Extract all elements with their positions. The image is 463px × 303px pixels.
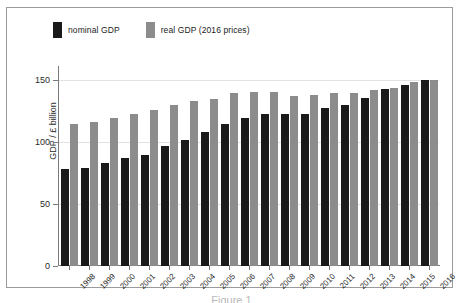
x-tick-label-2012: 2012 bbox=[358, 272, 377, 291]
bar-nominal-2005 bbox=[201, 132, 209, 266]
y-tick-label-50: 50 bbox=[40, 199, 50, 209]
x-tick-label-2010: 2010 bbox=[318, 272, 337, 291]
x-tick-mark-2000 bbox=[109, 266, 110, 270]
x-tick-mark-2008 bbox=[269, 266, 270, 270]
bar-real-2010 bbox=[310, 95, 318, 266]
x-tick-label-2013: 2013 bbox=[378, 272, 397, 291]
x-tick-label-2014: 2014 bbox=[398, 272, 417, 291]
figure-page: nominal GDP real GDP (2016 prices) GDP /… bbox=[0, 0, 463, 303]
x-tick-label-2004: 2004 bbox=[198, 272, 217, 291]
bar-real-2008 bbox=[270, 92, 278, 266]
x-tick-mark-2009 bbox=[289, 266, 290, 270]
x-tick-label-2009: 2009 bbox=[298, 272, 317, 291]
bar-real-2004 bbox=[190, 101, 198, 266]
bar-nominal-2010 bbox=[301, 114, 309, 266]
bar-group-2007 bbox=[239, 68, 259, 266]
bar-group-2000 bbox=[99, 68, 119, 266]
x-tick-label-2000: 2000 bbox=[118, 272, 137, 291]
x-tick-label-2016: 2016 bbox=[438, 272, 457, 291]
bar-real-2011 bbox=[330, 93, 338, 266]
bar-real-2002 bbox=[150, 110, 158, 266]
bar-group-2003 bbox=[159, 68, 179, 266]
x-tick-mark-2006 bbox=[229, 266, 230, 270]
bar-group-2011 bbox=[319, 68, 339, 266]
bar-nominal-1999 bbox=[81, 168, 89, 266]
bar-real-2000 bbox=[110, 118, 118, 267]
x-tick-label-2007: 2007 bbox=[258, 272, 277, 291]
legend-swatch-nominal-icon bbox=[53, 22, 62, 38]
bar-nominal-2016 bbox=[421, 80, 429, 266]
bar-real-2012 bbox=[350, 93, 358, 266]
bar-real-2007 bbox=[250, 92, 258, 266]
x-tick-mark-2015 bbox=[409, 266, 410, 270]
bar-group-2013 bbox=[359, 68, 379, 266]
bar-real-1999 bbox=[90, 122, 98, 266]
bar-nominal-2006 bbox=[221, 124, 229, 266]
x-tick-label-2001: 2001 bbox=[138, 272, 157, 291]
bar-nominal-2012 bbox=[341, 105, 349, 266]
chart-legend: nominal GDP real GDP (2016 prices) bbox=[53, 22, 250, 38]
x-tick-label-2008: 2008 bbox=[278, 272, 297, 291]
bar-group-2010 bbox=[299, 68, 319, 266]
y-tick-mark-100 bbox=[53, 142, 58, 143]
y-tick-label-100: 100 bbox=[35, 137, 50, 147]
bar-nominal-2014 bbox=[381, 89, 389, 266]
y-tick-mark-0 bbox=[53, 266, 58, 267]
bar-real-2006 bbox=[230, 93, 238, 266]
y-tick-label-150: 150 bbox=[35, 75, 50, 85]
x-tick-mark-1998 bbox=[69, 266, 70, 270]
bar-group-2002 bbox=[139, 68, 159, 266]
bar-real-1998 bbox=[70, 124, 78, 266]
bar-real-2016 bbox=[430, 80, 438, 266]
bar-real-2015 bbox=[410, 82, 418, 266]
bar-group-2009 bbox=[279, 68, 299, 266]
bar-nominal-2001 bbox=[121, 158, 129, 266]
bar-nominal-2009 bbox=[281, 114, 289, 266]
bar-group-2014 bbox=[379, 68, 399, 266]
bar-nominal-2004 bbox=[181, 140, 189, 266]
x-tick-mark-2001 bbox=[129, 266, 130, 270]
x-tick-mark-2003 bbox=[169, 266, 170, 270]
x-tick-label-2015: 2015 bbox=[418, 272, 437, 291]
bar-real-2003 bbox=[170, 105, 178, 266]
x-tick-mark-1999 bbox=[89, 266, 90, 270]
bar-real-2009 bbox=[290, 96, 298, 266]
x-tick-mark-2013 bbox=[369, 266, 370, 270]
y-tick-label-0: 0 bbox=[45, 261, 50, 271]
legend-entry-nominal: nominal GDP bbox=[53, 22, 120, 38]
bar-group-2004 bbox=[179, 68, 199, 266]
bar-group-2001 bbox=[119, 68, 139, 266]
x-tick-mark-2007 bbox=[249, 266, 250, 270]
bar-nominal-1998 bbox=[61, 169, 69, 266]
bar-group-2015 bbox=[399, 68, 419, 266]
x-tick-mark-2012 bbox=[349, 266, 350, 270]
x-tick-mark-2010 bbox=[309, 266, 310, 270]
x-tick-mark-2011 bbox=[329, 266, 330, 270]
x-tick-label-1999: 1999 bbox=[98, 272, 117, 291]
bar-group-2008 bbox=[259, 68, 279, 266]
x-tick-label-2003: 2003 bbox=[178, 272, 197, 291]
x-tick-label-2011: 2011 bbox=[338, 272, 357, 291]
bar-group-2016 bbox=[419, 68, 439, 266]
x-tick-label-1998: 1998 bbox=[78, 272, 97, 291]
y-axis-tick-labels: 050100150 bbox=[7, 8, 50, 303]
bar-group-1998 bbox=[59, 68, 79, 266]
bar-nominal-2007 bbox=[241, 118, 249, 267]
legend-entry-real: real GDP (2016 prices) bbox=[146, 22, 250, 38]
bar-nominal-2003 bbox=[161, 146, 169, 266]
bar-group-1999 bbox=[79, 68, 99, 266]
y-tick-mark-150 bbox=[53, 80, 58, 81]
bar-nominal-2015 bbox=[401, 85, 409, 266]
bar-group-2006 bbox=[219, 68, 239, 266]
bar-real-2005 bbox=[210, 99, 218, 266]
bar-real-2013 bbox=[370, 90, 378, 266]
plot-area bbox=[59, 68, 439, 266]
bar-nominal-2002 bbox=[141, 155, 149, 266]
legend-label-real: real GDP (2016 prices) bbox=[161, 25, 250, 35]
figure-caption: Figure 1 bbox=[0, 294, 463, 303]
x-tick-mark-2005 bbox=[209, 266, 210, 270]
bar-nominal-2011 bbox=[321, 108, 329, 266]
x-tick-label-2002: 2002 bbox=[158, 272, 177, 291]
x-tick-label-2005: 2005 bbox=[218, 272, 237, 291]
x-tick-mark-2004 bbox=[189, 266, 190, 270]
